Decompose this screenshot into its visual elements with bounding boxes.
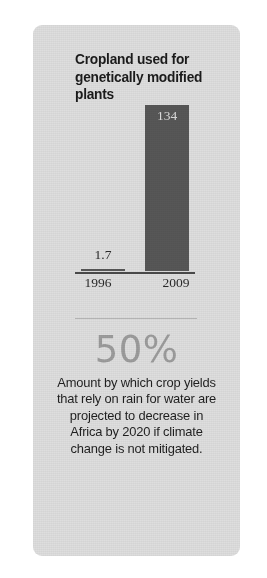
bar-2009: 134 xyxy=(145,105,189,271)
stat-caption: Amount by which crop yields that rely on… xyxy=(38,375,235,457)
bar-1996 xyxy=(81,269,125,271)
stat-figure: 50% xyxy=(33,330,240,370)
chart-title: Cropland used for genetically modified p… xyxy=(75,51,216,104)
axis-tick-labels: 1996 2009 xyxy=(69,275,205,291)
stat-callout: 50% Amount by which crop yields that rel… xyxy=(33,330,240,457)
section-divider xyxy=(75,318,197,319)
axis-tick-label-1996: 1996 xyxy=(69,275,127,291)
bar-value-1996: 1.7 xyxy=(77,247,129,263)
axis-baseline xyxy=(75,272,195,274)
infographic-card: Cropland used for genetically modified p… xyxy=(33,25,240,556)
axis-tick-label-2009: 2009 xyxy=(147,275,205,291)
bar-value-2009: 134 xyxy=(145,108,189,124)
bar-chart: Cropland used for genetically modified p… xyxy=(33,25,240,297)
